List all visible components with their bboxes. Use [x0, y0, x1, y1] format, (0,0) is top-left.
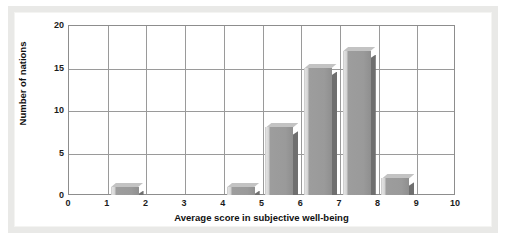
x-axis-tick-label: 5	[250, 198, 274, 208]
bar-front-face	[304, 68, 332, 196]
bar	[343, 51, 370, 196]
x-axis-tick-label: 4	[211, 198, 235, 208]
x-axis-tick-label: 6	[288, 198, 312, 208]
bars-layer	[68, 25, 455, 195]
chart-screenshot: 05101520 Number of nations 012345678910 …	[0, 0, 506, 239]
x-axis-tick-label: 7	[327, 198, 351, 208]
bar-front-face	[381, 178, 409, 195]
y-axis-tick-label: 10	[38, 105, 64, 115]
bar	[265, 127, 292, 195]
bar-front-face	[265, 127, 293, 195]
x-axis-tick-label: 0	[56, 198, 80, 208]
x-axis-tick-label: 1	[95, 198, 119, 208]
x-axis-tick-label: 2	[133, 198, 157, 208]
x-axis-tick-label: 10	[443, 198, 467, 208]
histogram-chart: 05101520 Number of nations 012345678910 …	[0, 0, 506, 239]
bar	[304, 68, 331, 196]
bar-front-face	[343, 51, 371, 196]
x-axis-tick-label: 8	[366, 198, 390, 208]
x-axis-title: Average score in subjective well-being	[68, 212, 455, 223]
bar-front-face	[227, 187, 255, 196]
bar	[381, 178, 408, 195]
y-axis-title: Number of nations	[17, 19, 28, 149]
x-axis-tick-label: 9	[404, 198, 428, 208]
x-axis-tick-label: 3	[172, 198, 196, 208]
bar	[111, 187, 138, 196]
y-axis-tick-label: 20	[38, 20, 64, 30]
y-axis-tick-labels: 05101520	[36, 25, 64, 195]
bar-front-face	[111, 187, 139, 196]
bar	[227, 187, 254, 196]
y-axis-tick-label: 15	[38, 63, 64, 73]
y-axis-tick-label: 5	[38, 148, 64, 158]
